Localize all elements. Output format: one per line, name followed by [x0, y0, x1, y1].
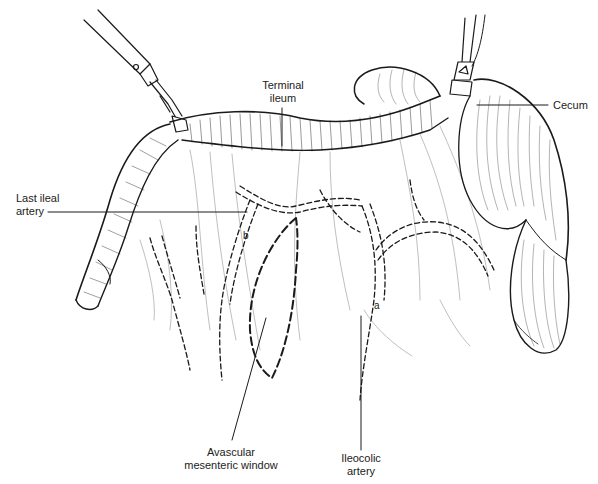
last-ileal-line2: artery: [16, 205, 59, 218]
leader-lines: [48, 105, 548, 450]
avascular-line1: Avascular: [166, 446, 296, 459]
left-bowel-loop: [76, 124, 178, 309]
ileocolic-line1: Ileocolic: [330, 452, 392, 465]
mesentery-fibers: [140, 126, 490, 356]
avascular-line2: mesenteric window: [166, 459, 296, 472]
left-grasper-icon: [84, 10, 188, 132]
label-last-ileal-artery: Last ileal artery: [16, 192, 59, 218]
terminal-ileum-bowel: [170, 96, 448, 151]
ileocolic-line2: artery: [330, 465, 392, 478]
terminal-ileum-line2: ileum: [258, 92, 308, 105]
anatomy-illustration: [0, 0, 598, 484]
mesenteric-vessels: [150, 180, 494, 400]
marker-b: b: [243, 230, 249, 241]
avascular-window-leader: [232, 318, 266, 440]
label-terminal-ileum: Terminal ileum: [258, 79, 308, 105]
last-ileal-line1: Last ileal: [16, 192, 59, 205]
marker-a: a: [374, 300, 380, 311]
cecum-text: Cecum: [553, 99, 588, 111]
terminal-ileum-line1: Terminal: [258, 79, 308, 92]
label-ileocolic-artery: Ileocolic artery: [330, 452, 392, 478]
label-avascular-window: Avascular mesenteric window: [166, 446, 296, 472]
right-grasper-icon: [450, 15, 485, 96]
cecum-colon: [354, 67, 568, 353]
label-cecum: Cecum: [553, 99, 588, 112]
avascular-window-outline: [250, 218, 298, 378]
